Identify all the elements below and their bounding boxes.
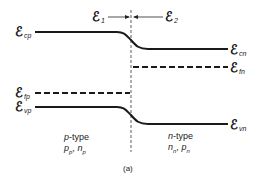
energy-band-diagram [0,0,258,184]
evn-label: ℰvn [230,118,246,135]
ecp-sub: cp [24,32,31,39]
p-carrier-2-sub: p [82,149,85,155]
n-region-label: n-type nn, pn [168,131,193,157]
p-type-suffix: -type [69,132,89,142]
efn-symbol: ℰ [230,60,238,75]
efp-symbol: ℰ [15,85,23,100]
n-type-text: n-type [168,131,193,142]
evp-label: ℰvp [15,100,31,117]
n-carriers: nn, pn [168,142,193,157]
ecn-symbol: ℰ [230,42,238,57]
e2-symbol: ℰ [165,9,173,24]
e2-sub: 2 [174,17,178,24]
ecn-sub: cn [239,50,246,57]
evp-symbol: ℰ [15,99,23,114]
evn-sub: vn [239,125,246,132]
figure-caption: (a) [123,164,133,173]
e1-symbol: ℰ [92,9,100,24]
e1-arrowhead [125,15,130,19]
efn-label: ℰfn [230,61,245,78]
efn-sub: fn [239,68,245,75]
n-type-suffix: -type [173,131,193,141]
p-region-label: p-type pp, np [64,132,89,158]
e1-sub: 1 [101,17,105,24]
e2-arrowhead [133,15,138,19]
conduction-band [35,32,228,49]
e2-label: ℰ2 [165,10,178,27]
evn-symbol: ℰ [230,117,238,132]
ecp-symbol: ℰ [15,24,23,39]
n-carrier-2-sub: n [186,148,189,154]
efp-sub: fp [24,93,30,100]
e1-label: ℰ1 [92,10,105,27]
p-carriers: pp, np [64,143,89,158]
ecp-label: ℰcp [15,25,31,42]
evp-sub: vp [24,107,31,114]
ecn-label: ℰcn [230,43,246,60]
valence-band [35,107,228,124]
p-type-text: p-type [64,132,89,143]
